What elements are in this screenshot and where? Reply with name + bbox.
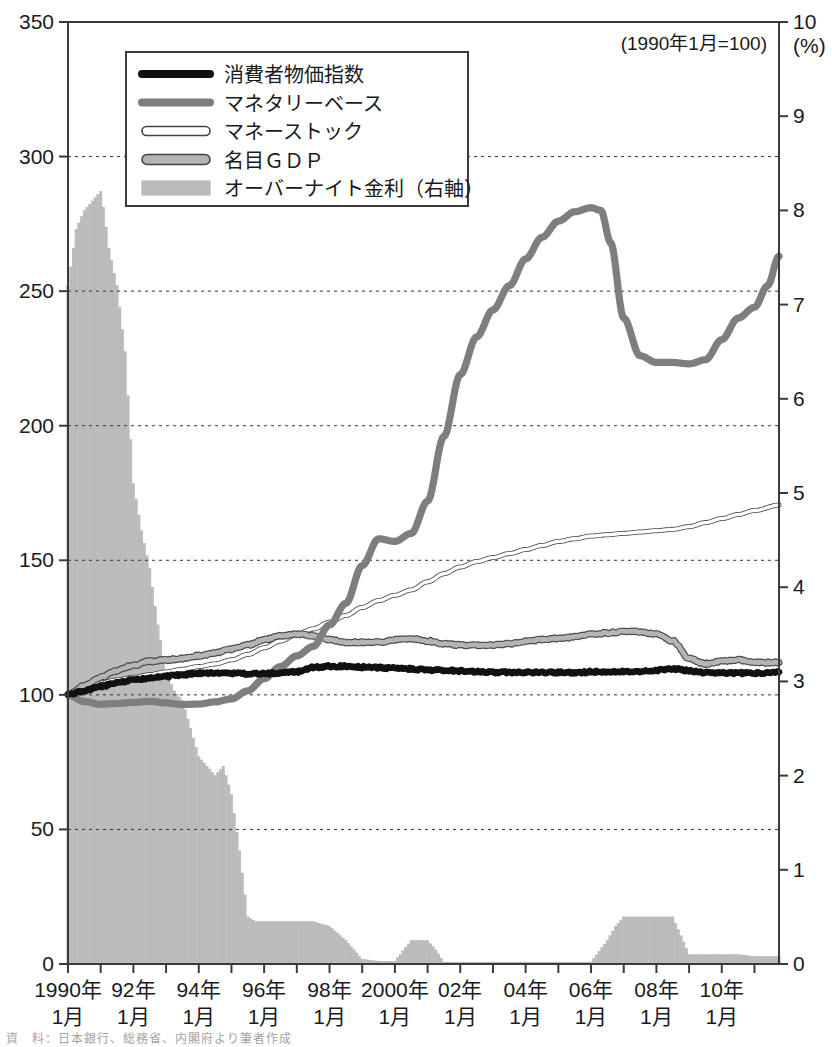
x-axis-tick-label-year: 04年 [503,978,547,1001]
y-axis-right: 012345678910(%) [779,10,826,975]
y2-axis-tick-label: 8 [793,198,805,221]
legend-item-label: 消費者物価指数 [224,64,364,86]
index-base-note: (1990年1月=100) [621,33,767,54]
x-axis-tick-label-year: 94年 [177,978,221,1001]
y2-axis-tick-label: 9 [793,104,805,127]
x-axis-tick-label-month: 1月 [182,1005,215,1028]
legend-swatch-money-stock [142,127,210,136]
x-axis-tick-label-year: 2000年 [361,978,429,1001]
x-axis-tick-label-month: 1月 [575,1005,608,1028]
x-axis: 1990年1月92年1月94年1月96年1月98年1月2000年1月02年1月0… [34,964,754,1028]
data-lines [68,208,779,705]
x-axis-tick-label-year: 1990年 [34,978,102,1001]
y-axis-tick-label: 100 [19,683,54,706]
y-axis-tick-label: 150 [19,548,54,571]
y2-axis-tick-label: 5 [793,481,805,504]
overnight-rate-bars [67,192,781,964]
x-axis-tick-label-year: 02年 [438,978,482,1001]
y2-axis-tick-label: 0 [793,952,805,975]
x-axis-tick-label-month: 1月 [248,1005,281,1028]
x-axis-tick-label-month: 1月 [705,1005,738,1028]
x-axis-tick-label-month: 1月 [640,1005,673,1028]
legend-item-label: 名目ＧＤＰ [224,150,324,172]
y2-axis-tick-label: 6 [793,387,805,410]
monetary-base-line [68,208,779,705]
x-axis-tick-label-month: 1月 [379,1005,412,1028]
x-axis-tick-label-year: 96年 [242,978,286,1001]
y-axis-tick-label: 200 [19,414,54,437]
y2-axis-tick-label: 3 [793,669,805,692]
x-axis-tick-label-year: 10年 [700,978,744,1001]
y-axis-tick-label: 350 [19,10,54,33]
y2-axis-tick-label: 10 [793,10,816,33]
legend-swatch-nominal-gdp [142,155,210,165]
x-axis-tick-label-month: 1月 [444,1005,477,1028]
y2-axis-tick-label: 7 [793,293,805,316]
x-axis-tick-label-year: 06年 [569,978,613,1001]
y2-axis-tick-label: 1 [793,858,805,881]
footnote-text: 資 料：日本銀行、総務省、内閣府より筆者作成 [6,1029,292,1046]
index-base-note-text: (1990年1月=100) [621,33,767,54]
y-axis-tick-label: 50 [31,817,54,840]
y2-axis-tick-label: 4 [793,575,805,598]
y2-axis-tick-label: 2 [793,764,805,787]
x-axis-tick-label-year: 08年 [634,978,678,1001]
x-axis-tick-label-month: 1月 [509,1005,542,1028]
x-axis-tick-label-month: 1月 [313,1005,346,1028]
legend-item-label: マネタリーベース [224,93,383,115]
legend-swatch-overnight-rate [142,181,210,195]
chart-page: 050100150200250300350012345678910(%)1990… [0,0,832,1047]
x-axis-tick-label-month: 1月 [52,1005,85,1028]
y-axis-tick-label: 300 [19,145,54,168]
y-axis-tick-label: 0 [42,952,54,975]
x-axis-tick-label-month: 1月 [117,1005,150,1028]
economic-indicators-chart: 050100150200250300350012345678910(%)1990… [0,0,832,1047]
legend-item-label: オーバーナイト金利（右軸） [224,178,484,200]
legend-item-label: マネーストック [224,121,363,143]
x-axis-tick-label-year: 98年 [307,978,351,1001]
y-axis-left: 050100150200250300350 [19,10,68,975]
legend: 消費者物価指数マネタリーベースマネーストック名目ＧＤＰオーバーナイト金利（右軸） [126,52,484,206]
y-axis-tick-label: 250 [19,279,54,302]
y2-axis-unit-label: (%) [793,34,826,57]
x-axis-tick-label-year: 92年 [111,978,155,1001]
